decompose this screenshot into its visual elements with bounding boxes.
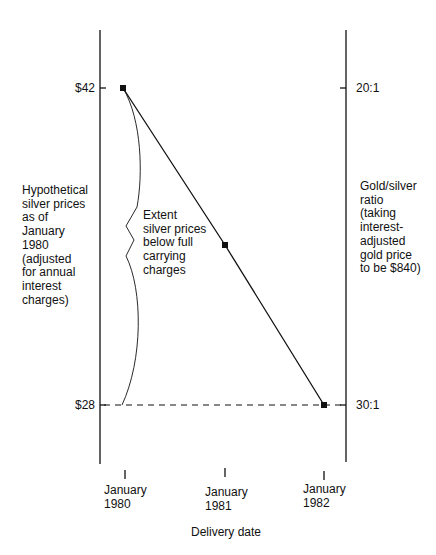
right-tick-label-30: 30:1 (356, 398, 379, 412)
right-tick-label-20: 20:1 (356, 81, 379, 95)
marker-jan-1981 (222, 242, 228, 248)
x-axis-label: Delivery date (191, 526, 261, 540)
left-tick-label-28: $28 (50, 398, 95, 412)
x-tick-label-jan-1980: January 1980 (104, 484, 147, 511)
left-tick-label-42: $42 (50, 81, 95, 95)
brace-annotation-text: Extent silver prices below full carrying… (143, 209, 206, 278)
brace-annotation (122, 88, 140, 405)
x-tick-label-jan-1981: January 1981 (205, 486, 248, 513)
right-axis-label: Gold/silver ratio (taking interest- adju… (360, 180, 421, 276)
left-axis-label: Hypothetical silver prices as of January… (22, 184, 88, 307)
marker-jan-1982 (321, 402, 327, 408)
x-tick-label-jan-1982: January 1982 (303, 483, 346, 510)
